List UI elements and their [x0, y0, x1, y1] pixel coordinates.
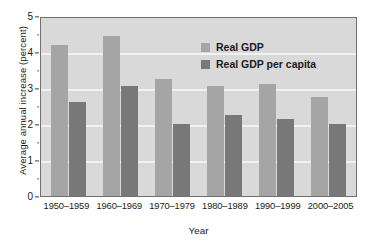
bar-real-gdp-per-capita [121, 86, 138, 196]
legend-label: Real GDP per capita [216, 57, 316, 72]
bar-real-gdp [103, 36, 120, 196]
y-tick-mark [35, 124, 39, 125]
bar-real-gdp-per-capita [329, 124, 346, 196]
y-tick-mark-minor [37, 34, 40, 35]
bar-real-gdp-per-capita [173, 124, 190, 196]
legend-swatch-icon [201, 43, 210, 52]
y-tick-mark-minor [37, 178, 40, 179]
bar-real-gdp-per-capita [277, 119, 294, 196]
y-tick-label: 0 [9, 192, 33, 202]
x-tick-label: 1970–1979 [146, 201, 199, 211]
x-tick-label: 1990–1999 [251, 201, 304, 211]
y-tick-mark [35, 16, 39, 17]
legend-item-real-gdp: Real GDP [201, 40, 316, 55]
y-axis-ticks: 5 4 3 2 1 0 [0, 0, 40, 252]
bar-group [43, 18, 95, 196]
chart-figure: Average annual increase (percent) 5 4 3 … [0, 0, 370, 252]
bar-real-gdp [155, 79, 172, 196]
y-tick-label: 2 [9, 120, 33, 130]
bar-group [147, 18, 199, 196]
legend-item-real-gdp-per-capita: Real GDP per capita [201, 57, 316, 72]
plot-area: Real GDP Real GDP per capita [40, 17, 357, 197]
bar-real-gdp [311, 97, 328, 196]
x-tick-label: 1950–1959 [40, 201, 93, 211]
y-tick-mark-minor [37, 142, 40, 143]
bar-real-gdp-per-capita [225, 115, 242, 196]
x-tick-label: 1980–1989 [198, 201, 251, 211]
y-tick-label: 4 [9, 48, 33, 58]
y-tick-mark-minor [37, 70, 40, 71]
y-tick-label: 1 [9, 156, 33, 166]
bar-real-gdp [207, 86, 224, 196]
x-tick-label: 2000–2005 [304, 201, 357, 211]
y-tick-mark [35, 52, 39, 53]
legend-label: Real GDP [216, 40, 264, 55]
y-tick-mark [35, 160, 39, 161]
y-tick-label: 5 [9, 12, 33, 22]
bar-group [95, 18, 147, 196]
y-tick-mark [35, 88, 39, 89]
bar-real-gdp [259, 84, 276, 196]
y-tick-label: 3 [9, 84, 33, 94]
bar-real-gdp-per-capita [69, 102, 86, 196]
x-axis-title: Year [40, 225, 357, 236]
y-tick-mark [35, 196, 39, 197]
x-tick-label: 1960–1969 [93, 201, 146, 211]
legend-swatch-icon [201, 60, 210, 69]
legend: Real GDP Real GDP per capita [201, 40, 316, 74]
x-axis-ticks: 1950–1959 1960–1969 1970–1979 1980–1989 … [40, 201, 357, 211]
bar-real-gdp [51, 45, 68, 196]
y-tick-mark-minor [37, 106, 40, 107]
